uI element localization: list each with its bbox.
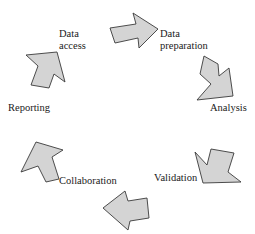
stage-label-line: Validation: [154, 172, 197, 184]
stage-label-data-preparation: Data preparation: [160, 28, 208, 52]
stage-label-reporting: Reporting: [8, 102, 50, 114]
stage-label-line: Collaboration: [59, 175, 117, 187]
stage-label-line: Data: [59, 28, 86, 40]
arrow-icon-to-reporting: [21, 142, 63, 182]
stage-label-line: preparation: [160, 40, 208, 52]
arrow-icon-to-collaboration: [103, 191, 149, 230]
stage-label-line: Analysis: [210, 102, 247, 114]
arrow-icon-to-data-preparation: [110, 13, 158, 48]
cycle-arrows: [0, 0, 255, 234]
analytics-cycle-diagram: Data access Data preparation Analysis Va…: [0, 0, 255, 234]
stage-label-line: Reporting: [8, 102, 50, 114]
stage-label-analysis: Analysis: [210, 102, 247, 114]
arrow-icon-to-data-access: [26, 52, 65, 88]
arrow-icon-to-validation: [195, 149, 241, 183]
stage-label-collaboration: Collaboration: [59, 175, 117, 187]
arrow-icon-to-analysis: [197, 56, 233, 100]
stage-label-validation: Validation: [154, 172, 197, 184]
stage-label-line: Data: [160, 28, 208, 40]
stage-label-line: access: [59, 40, 86, 52]
stage-label-data-access: Data access: [59, 28, 86, 52]
